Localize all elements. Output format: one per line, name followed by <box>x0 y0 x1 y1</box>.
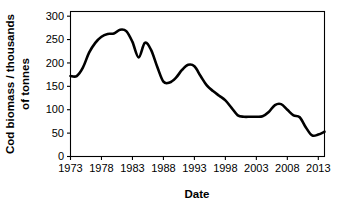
x-axis-tick-label: 1998 <box>213 162 237 174</box>
y-axis-tick-label: 250 <box>46 33 64 45</box>
y-axis-tick-label: 150 <box>46 80 64 92</box>
x-axis-tick-label: 1978 <box>89 162 113 174</box>
y-axis-tick-label: 0 <box>58 150 64 162</box>
x-axis-tick-label: 1993 <box>182 162 206 174</box>
x-axis-tick-label: 2003 <box>244 162 268 174</box>
x-axis-tick-label: 1973 <box>58 162 82 174</box>
y-axis-tick-label: 200 <box>46 57 64 69</box>
cod-biomass-line-chart: 050100150200250300 197319781983198819931… <box>0 0 338 204</box>
chart-figure: 050100150200250300 197319781983198819931… <box>0 0 338 204</box>
x-axis-title: Date <box>185 188 210 200</box>
x-axis-tick-label: 2008 <box>275 162 299 174</box>
y-axis-title-line-1: Cod biomass / thousands <box>4 14 16 154</box>
x-axis-tick-label: 2013 <box>306 162 330 174</box>
x-axis-tick-label: 1988 <box>151 162 175 174</box>
y-axis-tick-label: 50 <box>52 127 64 139</box>
x-axis-tick-label: 1983 <box>120 162 144 174</box>
y-axis-tick-label: 100 <box>46 103 64 115</box>
y-axis-tick-label: 300 <box>46 10 64 22</box>
y-axis-title-line-2: of tonnes <box>19 58 31 110</box>
